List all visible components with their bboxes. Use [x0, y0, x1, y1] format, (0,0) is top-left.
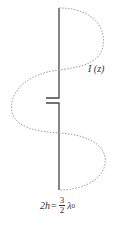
upper-dipole-arm [46, 8, 59, 98]
lower-dipole-arm [46, 103, 59, 190]
current-label: I (z) [88, 63, 104, 74]
equation-lhs: 2h [40, 200, 50, 211]
equation-fraction: 3 2 [59, 196, 66, 215]
lambda-subscript: 0 [71, 202, 75, 210]
equation-equals: = [51, 200, 57, 211]
length-equation: 2h = 3 2 λ 0 [40, 196, 75, 215]
fraction-denominator: 2 [60, 206, 65, 215]
